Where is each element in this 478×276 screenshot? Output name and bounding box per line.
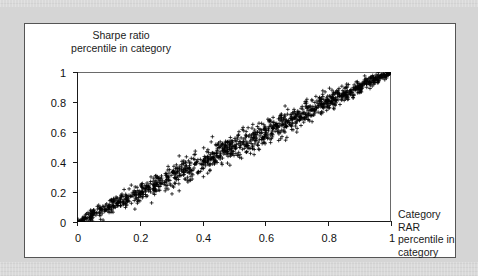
figure-container: Sharpe ratio percentile in category Cate… xyxy=(0,0,478,276)
y-tick-label: 1 xyxy=(60,67,66,79)
x-tick-label: 0.2 xyxy=(133,232,148,244)
scatter-points xyxy=(77,72,391,222)
plot-axes: 00.20.40.60.81 00.20.40.60.81 xyxy=(77,72,391,222)
y-tick-label: 0 xyxy=(60,217,66,229)
y-tick-label: 0.4 xyxy=(51,157,66,169)
y-tick-label: 0.8 xyxy=(51,97,66,109)
x-axis-title: Category RAR percentile in category xyxy=(398,208,458,258)
x-tick-label: 0.8 xyxy=(322,232,337,244)
chart-panel: Sharpe ratio percentile in category Cate… xyxy=(24,23,456,258)
plot-wrapper: Sharpe ratio percentile in category Cate… xyxy=(25,24,457,259)
x-tick-label: 0.4 xyxy=(196,232,211,244)
x-tick-label: 0 xyxy=(75,232,81,244)
y-tick-label: 0.6 xyxy=(51,127,66,139)
x-tick-label: 1 xyxy=(389,232,395,244)
x-tick-label: 0.6 xyxy=(259,232,274,244)
y-tick-label: 0.2 xyxy=(51,187,66,199)
y-axis-title: Sharpe ratio percentile in category xyxy=(31,29,211,55)
x-tick: 1 xyxy=(391,221,392,226)
